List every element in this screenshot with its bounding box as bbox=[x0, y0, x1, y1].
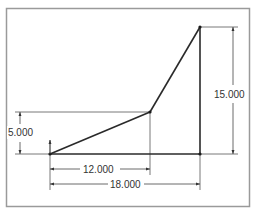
dimension-label: 12.000 bbox=[83, 164, 114, 175]
dimension-label: 15.000 bbox=[214, 89, 245, 100]
top-point[interactable] bbox=[198, 25, 201, 28]
sketch-canvas: 5.000 15.000 12.000 18.000 bbox=[0, 0, 255, 214]
dimension-label: 5.000 bbox=[8, 127, 33, 138]
dimension-label: 18.000 bbox=[110, 179, 141, 190]
bottom-right-point[interactable] bbox=[198, 152, 201, 155]
mid-point[interactable] bbox=[148, 110, 151, 113]
drawing-frame bbox=[7, 9, 250, 207]
